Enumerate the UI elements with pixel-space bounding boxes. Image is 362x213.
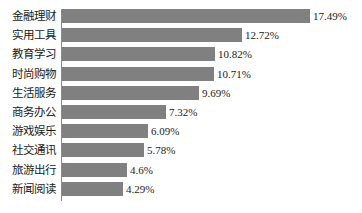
value-label: 10.82% xyxy=(218,45,252,64)
bar-row: 时尚购物10.71% xyxy=(0,65,362,84)
bar xyxy=(62,143,144,157)
bar-chart: 金融理财17.49%实用工具12.72%教育学习10.82%时尚购物10.71%… xyxy=(0,0,362,213)
plot-area: 金融理财17.49%实用工具12.72%教育学习10.82%时尚购物10.71%… xyxy=(0,0,362,213)
bar xyxy=(62,105,166,119)
bar-row: 金融理财17.49% xyxy=(0,7,362,26)
category-label: 游戏娱乐 xyxy=(0,122,56,141)
value-label: 5.78% xyxy=(147,141,175,160)
category-label: 旅游出行 xyxy=(0,161,56,180)
category-label: 商务办公 xyxy=(0,103,56,122)
value-label: 4.29% xyxy=(126,180,154,199)
value-label: 12.72% xyxy=(245,26,279,45)
bar-row: 生活服务9.69% xyxy=(0,84,362,103)
bar xyxy=(62,182,123,196)
value-label: 4.6% xyxy=(130,161,153,180)
category-label: 金融理财 xyxy=(0,7,56,26)
bar xyxy=(62,28,242,42)
bar-row: 旅游出行4.6% xyxy=(0,161,362,180)
bar-row: 新闻阅读4.29% xyxy=(0,180,362,199)
value-label: 7.32% xyxy=(169,103,197,122)
bar xyxy=(62,163,127,177)
bar-row: 商务办公7.32% xyxy=(0,103,362,122)
value-label: 10.71% xyxy=(217,65,251,84)
bar xyxy=(62,124,148,138)
bar-row: 社交通讯5.78% xyxy=(0,141,362,160)
bar-row: 游戏娱乐6.09% xyxy=(0,122,362,141)
category-label: 实用工具 xyxy=(0,26,56,45)
category-label: 生活服务 xyxy=(0,84,56,103)
category-label: 时尚购物 xyxy=(0,65,56,84)
bar xyxy=(62,47,215,61)
bar-row: 教育学习10.82% xyxy=(0,45,362,64)
value-label: 9.69% xyxy=(202,84,230,103)
category-label: 新闻阅读 xyxy=(0,180,56,199)
bar xyxy=(62,67,214,81)
category-label: 社交通讯 xyxy=(0,141,56,160)
bar xyxy=(62,9,310,23)
value-label: 17.49% xyxy=(313,7,347,26)
value-label: 6.09% xyxy=(151,122,179,141)
bar xyxy=(62,86,199,100)
category-label: 教育学习 xyxy=(0,45,56,64)
bar-row: 实用工具12.72% xyxy=(0,26,362,45)
